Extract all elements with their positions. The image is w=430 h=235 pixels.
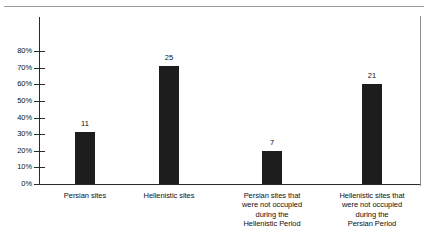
x-axis-category-label: Hellenistic sites thatwere not occupiedd… [324, 191, 420, 229]
x-axis-category-label-line: were not occupied [242, 200, 302, 209]
y-axis-tick [34, 184, 45, 185]
chart-figure: 0%10%20%30%40%50%60%70%80% 1125721 Persi… [0, 0, 430, 235]
y-axis-tick [34, 84, 45, 85]
y-axis-tick-label: 60% [0, 80, 32, 88]
x-axis-category-label-line: Hellenistic Period [243, 219, 300, 228]
y-axis-tick [34, 151, 45, 152]
y-axis-tick-label: 10% [0, 163, 32, 171]
bar-value-label: 7 [252, 139, 292, 147]
x-axis-category-label-line: during the [256, 210, 289, 219]
x-axis-category-label-line: Hellenistic sites [144, 191, 195, 200]
y-axis-tick [34, 51, 45, 52]
y-axis-tick-label: 0% [0, 180, 32, 188]
bar [75, 132, 95, 184]
y-axis-tick-label: 20% [0, 147, 32, 155]
y-axis-tick [34, 134, 45, 135]
bar-chart-plot-area: 0%10%20%30%40%50%60%70%80% 1125721 Persi… [0, 0, 430, 235]
y-axis-tick-label: 50% [0, 97, 32, 105]
y-axis-tick-label: 40% [0, 114, 32, 122]
x-axis-category-label-line: Persian sites [64, 191, 106, 200]
x-axis-category-label-line: Persian sites that [244, 191, 301, 200]
y-axis-tick [34, 167, 45, 168]
y-axis-tick [34, 101, 45, 102]
x-axis-category-label: Persian sites thatwere not occupieddurin… [224, 191, 320, 229]
y-axis-tick [34, 118, 45, 119]
x-axis-category-label-line: during the [356, 210, 389, 219]
x-axis-line [34, 184, 420, 185]
y-axis-tick-label: 80% [0, 47, 32, 55]
x-axis-category-label-line: Hellenistic sites that [339, 191, 404, 200]
bar [262, 151, 282, 184]
bar [159, 66, 179, 184]
bar-value-label: 25 [149, 54, 189, 62]
y-axis-tick-label: 70% [0, 64, 32, 72]
x-axis-category-label-line: were not occupied [342, 200, 402, 209]
y-axis-tick-label: 30% [0, 130, 32, 138]
x-axis-category-label: Hellenistic sites [121, 191, 217, 200]
bar-value-label: 11 [65, 120, 105, 128]
bar-value-label: 21 [352, 72, 392, 80]
x-axis-category-label: Persian sites [37, 191, 133, 200]
bar [362, 84, 382, 184]
x-axis-category-label-line: Persian Period [348, 219, 397, 228]
y-axis-tick [34, 68, 45, 69]
